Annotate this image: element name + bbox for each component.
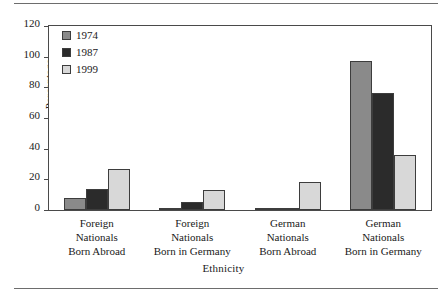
bar-1974-2[interactable] [159,208,181,210]
top-horizontal-rule [14,3,438,4]
x-axis-label-line: German [318,216,447,230]
bar-1999-2[interactable] [203,190,225,210]
legend-swatch-icon [62,48,71,57]
bar-group [159,26,225,210]
x-axis-title: Ethnicity [0,262,447,274]
bar-1987-2[interactable] [181,202,203,210]
bar-group [255,26,321,210]
chart-legend: 197419871999 [62,28,98,79]
bar-1974-3[interactable] [255,208,277,210]
legend-label: 1987 [76,47,98,58]
bar-1987-4[interactable] [372,93,394,210]
legend-label: 1999 [76,64,98,75]
bar-1974-1[interactable] [64,198,86,210]
y-axis-tick-label: 20 [29,171,40,182]
y-axis-tick: 100 [0,57,48,58]
figure-container: Percentage 020406080100120 ForeignNation… [0,0,447,302]
y-axis-tick-label: 0 [35,202,41,213]
bar-1987-1[interactable] [86,189,108,210]
y-axis-tick: 20 [0,179,48,180]
y-axis-tick: 60 [0,118,48,119]
bar-group [350,26,416,210]
bottom-horizontal-rule [14,288,438,289]
bar-1999-1[interactable] [108,169,130,210]
legend-item-1987[interactable]: 1987 [62,45,98,60]
legend-swatch-icon [62,65,71,74]
y-axis-tick: 40 [0,149,48,150]
legend-swatch-icon [62,31,71,40]
y-axis-tick-label: 60 [29,110,40,121]
y-axis-tick-label: 120 [24,18,41,29]
x-axis-label-line: Born in Germany [318,244,447,258]
y-axis-tick: 120 [0,26,48,27]
plot-area [49,26,431,210]
x-axis-label: GermanNationalsBorn in Germany [318,216,447,258]
x-axis-label-line: Nationals [318,230,447,244]
legend-item-1974[interactable]: 1974 [62,28,98,43]
bar-1987-3[interactable] [277,208,299,210]
bar-1999-3[interactable] [299,182,321,210]
legend-item-1999[interactable]: 1999 [62,62,98,77]
bar-1974-4[interactable] [350,61,372,210]
y-axis-tick-label: 100 [24,49,41,60]
y-axis-tick: 80 [0,87,48,88]
y-axis-tick-label: 40 [29,141,40,152]
bar-1999-4[interactable] [394,155,416,210]
y-axis-tick-label: 80 [29,79,40,90]
legend-label: 1974 [76,30,98,41]
y-axis-tick: 0 [0,210,48,211]
